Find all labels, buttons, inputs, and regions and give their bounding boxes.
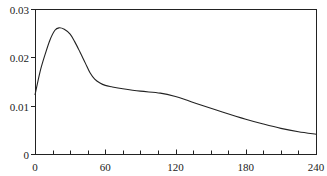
line-chart: 060120180240 00.010.020.03 <box>0 0 327 176</box>
x-tick-label: 60 <box>100 161 112 173</box>
x-tick-label: 0 <box>32 161 38 173</box>
plot-frame <box>36 10 317 155</box>
x-tick-label: 180 <box>238 161 255 173</box>
x-tick-label: 120 <box>167 161 184 173</box>
y-tick-label: 0 <box>24 149 30 161</box>
y-tick-label: 0.03 <box>10 4 30 16</box>
x-axis-ticks: 060120180240 <box>32 150 325 174</box>
y-tick-label: 0.01 <box>10 101 29 113</box>
x-tick-label: 240 <box>308 161 325 173</box>
y-axis-ticks: 00.010.020.03 <box>10 4 36 161</box>
y-tick-label: 0.02 <box>10 52 29 64</box>
data-curve <box>35 28 316 134</box>
